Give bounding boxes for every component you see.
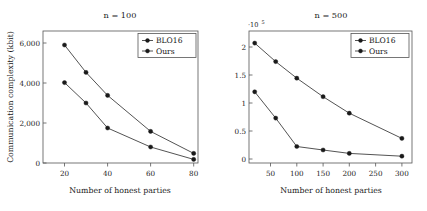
data-point <box>62 43 66 47</box>
x-axis-label-right: Number of honest parties <box>280 186 382 195</box>
y-axis-ticks-left: 0 2,000 4,000 6,000 <box>19 39 46 168</box>
x-axis-ticks-left: 20 40 60 80 <box>60 163 199 178</box>
chart-svg-left: n = 100 0 2,000 4,000 6,000 20 40 60 80 <box>0 0 214 211</box>
x-tick-label: 80 <box>189 169 199 178</box>
x-tick-label: 40 <box>103 169 113 178</box>
y-tick-label: 0 <box>35 159 40 168</box>
y-axis-label-left: Communication complexity (kbit) <box>6 31 15 163</box>
y-exponent-base: ·10 <box>248 21 259 29</box>
data-point <box>273 116 277 120</box>
legend-marker-ours <box>358 49 362 53</box>
data-point <box>62 81 66 85</box>
data-point <box>347 151 351 155</box>
data-point <box>106 126 110 130</box>
x-tick-label: 100 <box>289 169 303 178</box>
x-tick-label: 250 <box>368 169 382 178</box>
x-tick-label: 20 <box>60 169 70 178</box>
y-tick-label: 2 <box>241 43 246 52</box>
legend-marker-blo16 <box>358 39 362 43</box>
data-point <box>149 145 153 149</box>
y-axis-ticks-right: 0 0.5 1 1.5 2 <box>234 43 252 164</box>
x-tick-label: 60 <box>146 169 156 178</box>
legend-marker-ours <box>146 49 150 53</box>
y-tick-label: 0 <box>241 155 246 164</box>
data-point <box>399 136 403 140</box>
data-point <box>252 41 256 45</box>
data-point <box>294 144 298 148</box>
x-tick-label: 200 <box>342 169 356 178</box>
data-point <box>347 111 351 115</box>
data-point <box>321 95 325 99</box>
x-tick-label: 300 <box>395 169 409 178</box>
legend-label-ours: Ours <box>369 47 388 56</box>
y-tick-label: 4,000 <box>19 79 40 88</box>
x-tick-label: 50 <box>265 169 275 178</box>
chart-panel-right: n = 500 ·10 5 0 0.5 1 1.5 2 50 100 150 <box>214 0 427 211</box>
data-point <box>294 76 298 80</box>
y-tick-label: 2,000 <box>19 119 40 128</box>
y-exponent-label-right: ·10 5 <box>248 19 265 30</box>
data-point <box>252 90 256 94</box>
data-point <box>321 148 325 152</box>
y-tick-label: 6,000 <box>19 39 40 48</box>
x-axis-ticks-right: 50 100 150 200 250 300 <box>265 163 408 178</box>
y-exponent-power: 5 <box>261 19 264 25</box>
legend-right[interactable]: BLO16 Ours <box>351 34 409 58</box>
y-tick-label: 1.5 <box>234 71 246 80</box>
chart-title-right: n = 500 <box>314 10 347 20</box>
data-point <box>106 93 110 97</box>
data-point <box>84 101 88 105</box>
chart-title-left: n = 100 <box>104 10 137 20</box>
y-tick-label: 0.5 <box>234 127 246 136</box>
figure-two-panel-line-charts: n = 100 0 2,000 4,000 6,000 20 40 60 80 <box>0 0 427 211</box>
x-axis-label-left: Number of honest parties <box>69 186 171 195</box>
legend-label-blo16: BLO16 <box>369 36 396 45</box>
y-tick-label: 1 <box>241 99 246 108</box>
legend-left[interactable]: BLO16 Ours <box>138 34 196 58</box>
chart-panel-left: n = 100 0 2,000 4,000 6,000 20 40 60 80 <box>0 0 214 211</box>
series-ours-left <box>62 81 195 162</box>
chart-svg-right: n = 500 ·10 5 0 0.5 1 1.5 2 50 100 150 <box>214 0 427 211</box>
legend-label-blo16: BLO16 <box>156 36 183 45</box>
legend-label-ours: Ours <box>156 47 175 56</box>
data-point <box>192 157 196 161</box>
data-point <box>84 70 88 74</box>
data-point <box>192 151 196 155</box>
data-point <box>273 60 277 64</box>
legend-marker-blo16 <box>146 39 150 43</box>
x-tick-label: 150 <box>316 169 330 178</box>
data-point <box>149 129 153 133</box>
data-point <box>399 154 403 158</box>
